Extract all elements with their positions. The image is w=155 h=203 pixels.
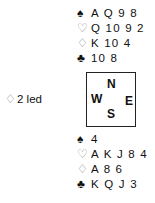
club-icon: ♣ <box>77 177 91 192</box>
north-hearts-row: ♡ Q 10 9 2 <box>77 21 145 36</box>
north-hearts: Q 10 9 2 <box>91 21 145 36</box>
south-hand: ♠ 4 ♡ A K J 8 4 ♢ A 8 6 ♣ K Q J 3 <box>77 132 148 192</box>
north-spades: A Q 9 8 <box>91 6 138 21</box>
north-spades-row: ♠ A Q 9 8 <box>77 6 145 21</box>
compass-box: N W E S <box>86 72 136 127</box>
south-spades: 4 <box>91 132 99 147</box>
diamond-icon: ♢ <box>77 162 91 177</box>
north-hand: ♠ A Q 9 8 ♡ Q 10 9 2 ♢ K 10 4 ♣ 10 8 <box>77 6 145 66</box>
diamond-icon: ♢ <box>77 36 91 51</box>
spade-icon: ♠ <box>77 132 91 147</box>
south-clubs: K Q J 3 <box>91 177 138 192</box>
heart-icon: ♡ <box>77 21 91 36</box>
south-diamonds-row: ♢ A 8 6 <box>77 162 148 177</box>
opening-lead: ♢2 led <box>5 92 42 106</box>
north-clubs-row: ♣ 10 8 <box>77 51 145 66</box>
north-diamonds: K 10 4 <box>91 36 131 51</box>
north-clubs: 10 8 <box>91 51 118 66</box>
compass-east: E <box>125 94 133 108</box>
south-spades-row: ♠ 4 <box>77 132 148 147</box>
south-clubs-row: ♣ K Q J 3 <box>77 177 148 192</box>
compass-north: N <box>107 77 116 91</box>
south-diamonds: A 8 6 <box>91 162 123 177</box>
compass-west: W <box>91 92 102 106</box>
diamond-icon: ♢ <box>5 92 16 106</box>
compass-south: S <box>107 107 115 121</box>
club-icon: ♣ <box>77 51 91 66</box>
lead-text: 2 led <box>17 93 42 105</box>
heart-icon: ♡ <box>77 147 91 162</box>
north-diamonds-row: ♢ K 10 4 <box>77 36 145 51</box>
south-hearts-row: ♡ A K J 8 4 <box>77 147 148 162</box>
spade-icon: ♠ <box>77 6 91 21</box>
south-hearts: A K J 8 4 <box>91 147 148 162</box>
